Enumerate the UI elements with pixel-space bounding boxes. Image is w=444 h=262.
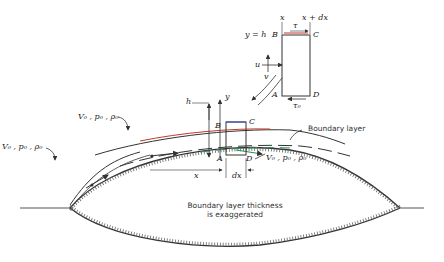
label-x-detail: x [280,14,285,22]
label-corner-D-detail: D [313,91,319,99]
label-y-eq-h: y = h [245,31,266,39]
label-y: y [225,93,230,101]
boundary-layer-diagram: x x + dx τ y = h B C u v A D τ₀ h y B C … [0,0,444,262]
note-line-1: Boundary layer thickness [180,201,290,210]
label-corner-A: A [217,155,223,163]
label-freestream-right: V₀ , p₀ , ρ₀ [266,154,306,162]
label-corner-D: D [246,155,252,163]
label-corner-B-detail: B [272,31,278,39]
label-freestream-upper: V₀ , p₀ , ρ₀ [78,113,118,121]
label-x-plus-dx: x + dx [302,14,328,22]
note-line-2: is exaggerated [180,210,290,219]
label-dx: dx [232,172,242,180]
label-x: x [194,172,199,180]
label-tau-zero: τ₀ [293,102,301,110]
label-boundary-layer: Boundary layer [308,124,365,133]
label-corner-C: C [249,118,255,126]
diagram-graphics [0,0,444,262]
boundary-layer-lines [70,129,350,205]
label-freestream-lower: V₀ , p₀ , ρ₀ [2,143,42,151]
label-corner-C-detail: C [313,31,319,39]
flow-arrows [46,117,302,188]
note-thickness-exaggerated: Boundary layer thickness is exaggerated [180,201,290,220]
label-corner-B: B [215,122,221,130]
label-v: v [264,73,269,81]
label-tau: τ [293,22,297,30]
label-u: u [255,61,260,69]
label-corner-A-detail: A [272,91,278,99]
label-h: h [186,98,191,106]
